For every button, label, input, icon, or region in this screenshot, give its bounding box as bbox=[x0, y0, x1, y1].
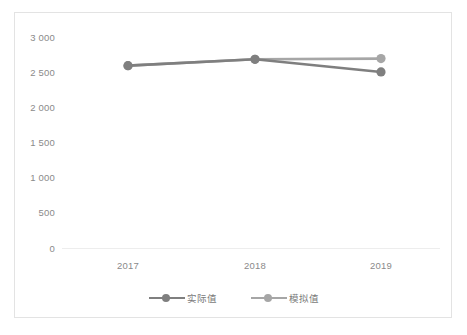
chart-legend: 实际值 模拟值 bbox=[0, 291, 467, 305]
y-axis-tick-label-3000: 3 000 bbox=[9, 32, 55, 43]
y-axis-tick-label-2500: 2 500 bbox=[9, 67, 55, 78]
y-axis-tick-label-2000: 2 000 bbox=[9, 102, 55, 113]
x-axis-tick-label-2017: 2017 bbox=[98, 260, 158, 271]
x-axis-tick-label-2019: 2019 bbox=[351, 260, 411, 271]
legend-marker-icon-actual bbox=[149, 293, 185, 304]
legend-item-simulated[interactable]: 模拟值 bbox=[251, 291, 319, 305]
chart-border-frame bbox=[14, 12, 452, 318]
legend-label-simulated: 模拟值 bbox=[289, 291, 319, 305]
line-chart: 3 000 2 500 2 000 1 500 1 000 500 0 2017… bbox=[0, 0, 467, 335]
legend-marker-icon-simulated bbox=[251, 293, 287, 304]
y-axis-tick-label-0: 0 bbox=[9, 243, 55, 254]
legend-label-actual: 实际值 bbox=[187, 291, 217, 305]
y-axis-tick-label-1000: 1 000 bbox=[9, 172, 55, 183]
y-axis-tick-label-500: 500 bbox=[9, 207, 55, 218]
x-axis-tick-label-2018: 2018 bbox=[225, 260, 285, 271]
legend-item-actual[interactable]: 实际值 bbox=[149, 291, 217, 305]
y-axis-tick-label-1500: 1 500 bbox=[9, 137, 55, 148]
